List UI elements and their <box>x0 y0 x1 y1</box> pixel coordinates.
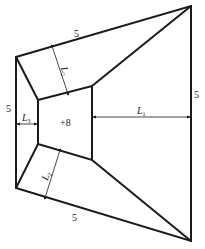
dimension-l2-bottom: L2 <box>39 149 61 199</box>
label-bottom-edge: 5 <box>72 212 77 223</box>
label-top-edge: 5 <box>74 28 79 39</box>
ridge-top-left <box>16 57 38 100</box>
svg-text:L3: L3 <box>21 112 31 124</box>
dimension-l2-top: L2 <box>51 45 72 95</box>
ridge-top-right <box>92 6 191 86</box>
outer-boundary <box>16 6 191 241</box>
ridge-bottom-right <box>92 160 191 241</box>
dimension-l1: L1 <box>92 105 191 119</box>
label-left-edge: 5 <box>6 103 11 114</box>
label-right-edge: 5 <box>194 89 199 100</box>
svg-text:L1: L1 <box>136 105 146 117</box>
ridge-bottom-left <box>16 144 38 188</box>
svg-text:L2: L2 <box>39 170 53 183</box>
label-inner-elevation: +8 <box>60 117 71 128</box>
diagram-canvas: L2 L3 L1 L2 5 5 5 5 +8 <box>0 0 205 249</box>
dimension-l3: L3 <box>16 112 38 126</box>
svg-text:L2: L2 <box>58 64 72 77</box>
